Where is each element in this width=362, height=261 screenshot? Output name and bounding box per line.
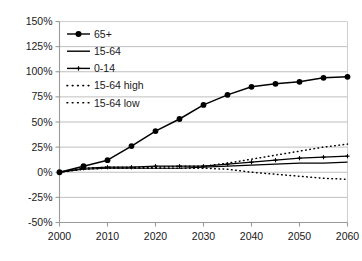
data-point [201, 102, 207, 108]
legend-label: 0-14 [94, 62, 115, 74]
x-tick-label-2060: 2060 [336, 230, 360, 242]
data-point [225, 92, 231, 98]
data-point [321, 75, 327, 81]
y-tick-label--50: -50% [28, 216, 53, 228]
data-point [249, 84, 255, 90]
y-tick-label-25: 25% [31, 141, 52, 153]
x-tick-label-2030: 2030 [192, 230, 216, 242]
y-tick-label-75: 75% [31, 90, 52, 102]
data-point [273, 81, 279, 87]
x-tick-label-2000: 2000 [48, 230, 72, 242]
y-tick-label-150: 150% [26, 15, 53, 27]
data-point [177, 116, 183, 122]
data-point [105, 157, 111, 163]
y-tick-label-100: 100% [26, 65, 53, 77]
chart-background [0, 0, 362, 261]
data-point [297, 79, 303, 85]
x-tick-label-2020: 2020 [144, 230, 168, 242]
data-point [345, 74, 351, 80]
x-tick-label-2010: 2010 [96, 230, 120, 242]
legend-label: 65+ [94, 28, 112, 40]
legend-label: 15-64 high [94, 79, 144, 91]
x-tick-label-2040: 2040 [240, 230, 264, 242]
y-tick-label--25: -25% [28, 191, 53, 203]
y-tick-label-125: 125% [26, 40, 53, 52]
data-point [153, 128, 159, 134]
line-chart: -50%-25%0%25%50%75%100%125%150%200020102… [0, 0, 362, 261]
legend-label: 15-64 [94, 45, 121, 57]
legend-swatch-marker [76, 31, 82, 37]
x-tick-label-2050: 2050 [288, 230, 312, 242]
y-tick-label-50: 50% [31, 116, 52, 128]
data-point [129, 143, 135, 149]
y-tick-label-0: 0% [37, 166, 52, 178]
chart-container: -50%-25%0%25%50%75%100%125%150%200020102… [0, 0, 362, 261]
legend-label: 15-64 low [94, 97, 140, 109]
